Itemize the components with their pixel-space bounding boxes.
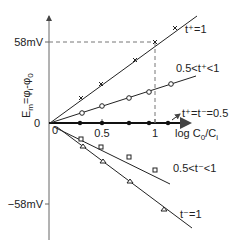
label-t-equal: t⁺=t⁻=0.5 <box>182 107 228 119</box>
label-t-plus-1: t⁺=1 <box>185 23 207 35</box>
x-axis-label: log C0/Ci <box>175 127 218 142</box>
x-tick-1: 1 <box>152 127 158 139</box>
x-tick-0: 0 <box>52 124 58 136</box>
t-equal-pointer <box>172 114 180 120</box>
label-t-plus-partial: 0.5<t⁺<1 <box>176 62 219 74</box>
line-t-plus-1 <box>50 16 197 123</box>
y-tick-0: 0 <box>34 117 40 129</box>
label-t-minus-partial: 0.5<t⁻<1 <box>173 162 216 174</box>
y-tick-58: 58mV <box>14 36 43 48</box>
line-t-minus-1 <box>57 127 192 228</box>
membrane-potential-diagram: 58mV 0 −58mV 0 0.5 1 log C0/Ci Em=φi-φ0 … <box>0 0 242 244</box>
y-tick-neg58: −58mV <box>8 198 44 210</box>
y-axis-label: Em=φi-φ0 <box>20 73 35 118</box>
x-tick-0.5: 0.5 <box>94 127 109 139</box>
label-t-minus-1: t⁻=1 <box>180 208 202 220</box>
line-t-plus-partial <box>50 76 196 123</box>
